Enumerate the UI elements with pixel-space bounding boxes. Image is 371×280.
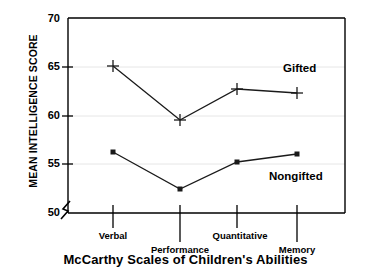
x-tick-label-quantitative: Quantitative <box>213 230 268 241</box>
series-line-gifted <box>113 66 297 120</box>
gridlines <box>68 67 345 164</box>
series-label-gifted: Gifted <box>283 62 316 74</box>
series-label-nongifted: Nongifted <box>269 170 323 182</box>
x-axis-ticks <box>113 205 297 242</box>
chart-figure: MEAN INTELLIGENCE SCORE 70 65 60 55 50 <box>0 0 371 280</box>
chart-canvas <box>0 0 371 280</box>
x-tick-label-verbal: Verbal <box>99 230 128 241</box>
x-axis-title: McCarthy Scales of Children's Abilities <box>0 252 371 267</box>
